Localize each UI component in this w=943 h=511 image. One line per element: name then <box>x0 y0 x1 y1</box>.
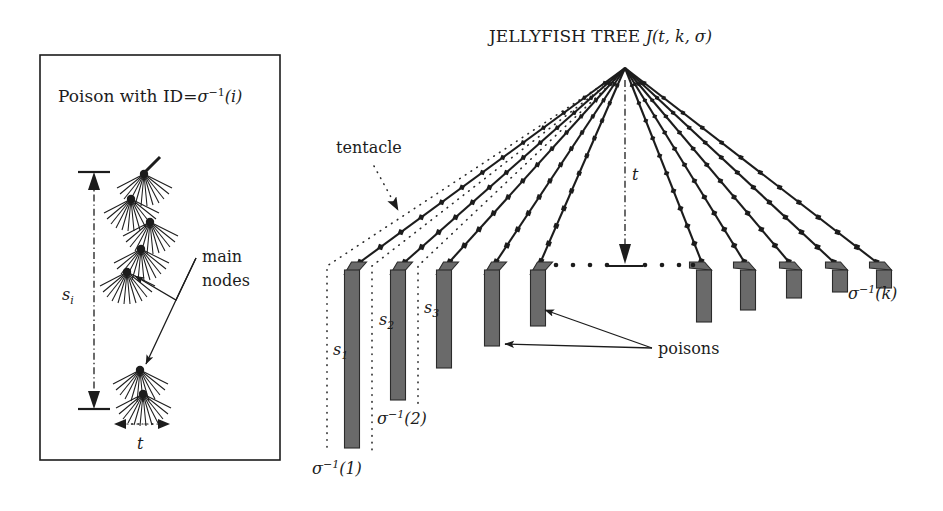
ellipsis-dot <box>660 263 665 268</box>
sigma-1-sup: −1 <box>323 458 339 471</box>
main-nodes-label-line1: main <box>202 247 242 266</box>
tentacle-node <box>561 205 567 211</box>
poison-bar-body <box>391 270 406 400</box>
ellipsis-dot <box>643 263 648 268</box>
tentacle <box>625 68 794 268</box>
jellyfish-tree-figure: Poison with ID=σ−1(i) si <box>0 0 943 511</box>
panel-title-arg: (i) <box>225 87 243 106</box>
svg-text:σ−1(1): σ−1(1) <box>312 458 362 478</box>
poison-bar <box>690 262 712 322</box>
tentacle-node <box>671 188 677 194</box>
tentacle-node <box>664 170 670 176</box>
panel-title-prefix: Poison with ID= <box>58 86 198 106</box>
poison-bar <box>485 262 507 346</box>
tentacle-node <box>677 205 683 211</box>
poison-bar-body <box>531 270 546 326</box>
main-nodes-label-line2: nodes <box>202 271 250 290</box>
poisons-label: poisons <box>658 339 719 358</box>
figure-root: Poison with ID=σ−1(i) si <box>0 0 943 511</box>
figure-title: JELLYFISH TREE J(t, k, σ) <box>487 26 712 46</box>
tentacle-node <box>684 223 690 229</box>
poison-bar-cap <box>870 262 892 270</box>
tentacle <box>444 68 625 268</box>
poison-detail-panel: Poison with ID=σ−1(i) si <box>40 55 280 460</box>
poison-bar-body <box>485 270 500 346</box>
panel-title-sup: −1 <box>208 86 224 99</box>
tentacle-node <box>553 223 559 229</box>
poison-bar <box>734 262 756 310</box>
tentacle-node <box>657 153 662 158</box>
tentacle-annotation: tentacle <box>336 138 402 210</box>
ellipsis-dot <box>588 263 593 268</box>
tentacle <box>352 68 625 268</box>
tentacle-node <box>569 188 575 194</box>
poison-bar-body <box>787 270 802 298</box>
poison-bar-body <box>833 270 848 292</box>
tentacle-node <box>691 240 697 246</box>
tentacle-layer <box>352 68 884 268</box>
tentacle-path <box>625 68 794 268</box>
depth-label-t: t <box>632 165 639 184</box>
sigma-label-2: σ−1(2) <box>377 408 427 428</box>
sigma-label-k: σ−1(k) <box>848 283 897 303</box>
poison-bar <box>437 262 459 368</box>
span-guides <box>327 70 625 452</box>
svg-text:σ−1(2): σ−1(2) <box>377 408 427 428</box>
tentacle-label: tentacle <box>336 138 402 157</box>
ellipsis-dot <box>691 263 696 268</box>
jellyfish-tree: JELLYFISH TREE J(t, k, σ) t <box>312 26 897 478</box>
tentacle-node <box>545 240 551 246</box>
tentacle <box>538 68 625 268</box>
tentacle <box>625 68 840 268</box>
sigma-k-sup: −1 <box>859 283 875 296</box>
poison-bar-body <box>697 270 712 322</box>
panel-border <box>40 55 280 460</box>
depth-arrow-down <box>619 244 631 264</box>
figure-title-args: (t, k, σ) <box>652 27 712 46</box>
ellipsis-dot <box>554 263 559 268</box>
poison-bar-cap <box>734 262 756 270</box>
figure-title-text: JELLYFISH TREE <box>487 26 646 46</box>
ellipsis-dot <box>605 263 610 268</box>
sigma-label-1: σ−1(1) <box>312 458 362 478</box>
svg-text:σ−1(k): σ−1(k) <box>848 283 897 303</box>
poison-bar-cap <box>780 262 802 270</box>
tentacle-path <box>538 68 625 268</box>
poison-bar-cap <box>826 262 848 270</box>
tentacle <box>625 68 748 268</box>
poison-bar <box>826 262 848 292</box>
poison-bar <box>780 262 802 298</box>
tentacle-path <box>625 68 748 268</box>
width-label-t: t <box>137 434 144 453</box>
sigma-2-arg: (2) <box>404 409 427 428</box>
sigma-k-arg: (k) <box>875 284 897 303</box>
ellipsis-dot <box>571 263 576 268</box>
poison-bar <box>531 262 553 326</box>
tentacle-path <box>444 68 625 268</box>
sigma-1-arg: (1) <box>339 459 362 478</box>
depth-measure-t: t <box>607 80 643 266</box>
ellipsis-dot <box>677 263 682 268</box>
sigma-2-sup: −1 <box>388 408 404 421</box>
poison-bar-body <box>741 270 756 310</box>
